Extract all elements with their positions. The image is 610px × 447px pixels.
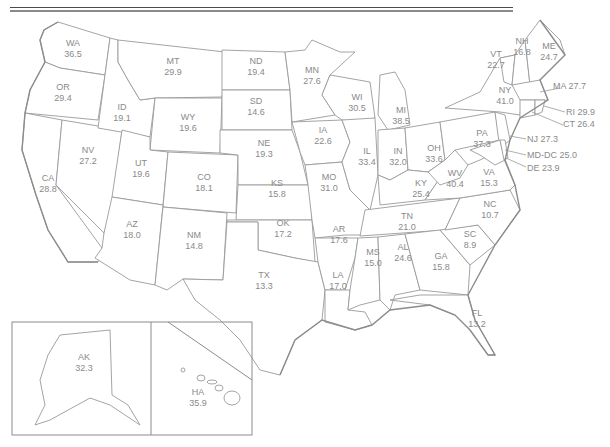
label-al: AL24.6: [394, 242, 412, 264]
label-wv: WV40.4: [446, 168, 464, 190]
label-pa: PA37.3: [473, 128, 491, 150]
label-me: ME24.7: [540, 41, 558, 63]
label-mt: MT29.9: [164, 56, 182, 78]
label-mn: MN27.6: [303, 65, 321, 87]
label-ks: KS15.8: [268, 178, 286, 200]
label-de: DE 23.9: [527, 163, 560, 174]
label-va: VA15.3: [480, 167, 498, 189]
label-ky: KY25.4: [412, 178, 430, 200]
label-id: ID19.1: [113, 102, 131, 124]
leader-md: [505, 150, 526, 155]
label-or: OR29.4: [54, 82, 72, 104]
label-sc: SC8.9: [464, 229, 477, 251]
label-oh: OH33.6: [425, 143, 443, 165]
leader-ct: [532, 112, 563, 125]
label-co: CO18.1: [195, 172, 213, 194]
label-mi: MI38.5: [392, 105, 410, 127]
label-wy: WY19.6: [179, 112, 197, 134]
label-la: LA17.0: [329, 270, 347, 292]
label-vt: VT22.7: [487, 49, 505, 71]
label-az: AZ18.0: [123, 219, 141, 241]
label-ak: AK32.3: [75, 352, 93, 374]
label-ms: MS15.0: [364, 247, 382, 269]
leader-nj: [510, 136, 526, 139]
label-ha: HA35.9: [189, 387, 207, 409]
label-ok: OK17.2: [274, 218, 292, 240]
label-il: IL33.4: [358, 146, 376, 168]
label-wi: WI30.5: [348, 92, 366, 114]
label-ne: NE19.3: [255, 138, 273, 160]
label-mddc: MD-DC 25.0: [527, 150, 577, 161]
label-sd: SD14.6: [247, 96, 265, 118]
label-ia: IA22.6: [314, 125, 332, 147]
label-tx: TX13.3: [255, 270, 273, 292]
label-ar: AR17.6: [330, 224, 348, 246]
label-ga: GA15.8: [432, 251, 450, 273]
label-ca: CA28.8: [39, 173, 57, 195]
label-nd: ND19.4: [247, 56, 265, 78]
label-fl: FL13.2: [468, 308, 486, 330]
label-nv: NV27.2: [79, 145, 97, 167]
leader-ri: [544, 106, 565, 112]
label-mo: MO31.0: [320, 172, 338, 194]
label-nh: NH16.8: [513, 36, 531, 58]
label-wa: WA36.5: [64, 38, 82, 60]
label-nj: NJ 27.3: [527, 134, 558, 145]
label-in: IN32.0: [389, 146, 407, 168]
label-ut: UT19.6: [132, 158, 150, 180]
label-ma: MA 27.7: [553, 81, 586, 92]
label-ct: CT 26.4: [563, 119, 595, 130]
state-ak: [35, 330, 140, 425]
label-nm: NM14.8: [185, 230, 203, 252]
leader-de: [506, 158, 526, 167]
label-ri: RI 29.9: [566, 107, 595, 118]
label-ny: NY41.0: [496, 85, 514, 107]
label-tn: TN21.0: [398, 211, 416, 233]
label-nc: NC10.7: [481, 199, 499, 221]
